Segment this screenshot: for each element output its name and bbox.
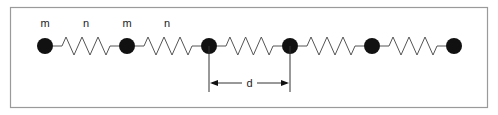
spring-label-2: n <box>164 17 170 29</box>
mass-5 <box>364 38 380 54</box>
mass-6 <box>446 38 462 54</box>
mass-label-2: m <box>122 17 131 29</box>
distance-label: d <box>246 77 252 89</box>
spring-label-1: n <box>83 17 89 29</box>
mass-label-1: m <box>40 17 49 29</box>
mass-2 <box>119 38 135 54</box>
mass-1 <box>37 38 53 54</box>
mass-spring-diagram: m n m n d <box>0 0 498 115</box>
